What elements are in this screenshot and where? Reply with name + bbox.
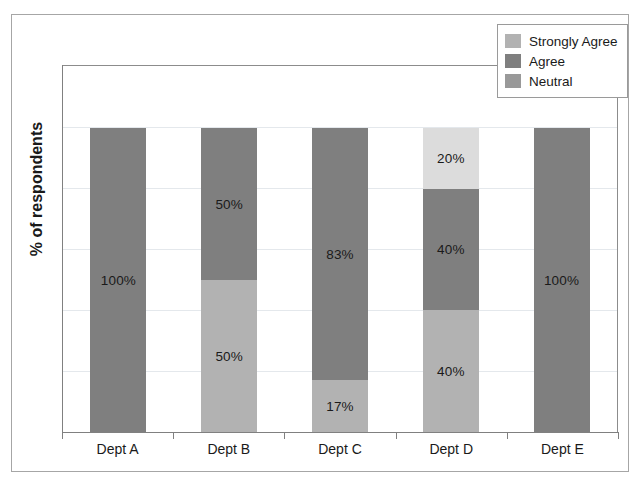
bar-segment-label: 50% — [215, 197, 243, 212]
legend-item[interactable]: Neutral — [505, 71, 618, 91]
bar-slot: 100% — [63, 66, 174, 432]
chart-legend: Strongly AgreeAgreeNeutral — [497, 24, 628, 98]
x-axis-line — [62, 432, 619, 433]
bar-segment-label: 83% — [326, 247, 354, 262]
x-axis-tick — [618, 433, 619, 439]
legend-swatch — [505, 74, 521, 88]
bar-segment[interactable]: 17% — [312, 380, 368, 432]
bar-segment-label: 20% — [437, 151, 465, 166]
x-axis-label: Dept E — [507, 441, 618, 465]
bar-segment[interactable]: 100% — [90, 128, 146, 432]
stacked-bar[interactable]: 100% — [534, 128, 590, 432]
legend-item[interactable]: Strongly Agree — [505, 31, 618, 51]
stacked-bar[interactable]: 50%50% — [201, 128, 257, 432]
legend-label: Neutral — [529, 74, 573, 89]
bar-segment[interactable]: 40% — [423, 189, 479, 311]
bar-slot: 83%17% — [285, 66, 396, 432]
bar-segment-label: 40% — [437, 364, 465, 379]
legend-item[interactable]: Agree — [505, 51, 618, 71]
bar-slot: 20%40%40% — [395, 66, 506, 432]
bar-segment[interactable]: 40% — [423, 310, 479, 432]
x-axis-label: Dept C — [284, 441, 395, 465]
bar-segment-label: 100% — [544, 273, 579, 288]
bar-slot: 100% — [506, 66, 617, 432]
x-axis-tick — [62, 433, 63, 439]
bar-segment[interactable]: 20% — [423, 128, 479, 189]
bar-segment-label: 40% — [437, 242, 465, 257]
bar-segment[interactable]: 83% — [312, 128, 368, 380]
x-axis-tick — [507, 433, 508, 439]
bar-group: 100%50%50%83%17%20%40%40%100% — [63, 66, 617, 432]
y-axis-line — [62, 65, 63, 433]
stacked-bar[interactable]: 20%40%40% — [423, 128, 479, 432]
bar-slot: 50%50% — [174, 66, 285, 432]
bar-segment[interactable]: 50% — [201, 280, 257, 432]
x-axis-tick — [284, 433, 285, 439]
chart-figure: 100%50%50%83%17%20%40%40%100% Dept ADept… — [0, 0, 641, 488]
x-axis-label: Dept B — [173, 441, 284, 465]
x-axis-label: Dept A — [62, 441, 173, 465]
x-axis-tick — [396, 433, 397, 439]
bar-segment-label: 50% — [215, 349, 243, 364]
bar-segment[interactable]: 100% — [534, 128, 590, 432]
bar-segment-label: 17% — [326, 399, 354, 414]
bar-segment[interactable]: 50% — [201, 128, 257, 280]
stacked-bar[interactable]: 83%17% — [312, 128, 368, 432]
x-axis-label: Dept D — [396, 441, 507, 465]
plot-area-border: 100%50%50%83%17%20%40%40%100% — [62, 65, 618, 433]
bar-segment-label: 100% — [101, 273, 136, 288]
y-axis-title: % of respondents — [28, 64, 46, 314]
legend-swatch — [505, 34, 521, 48]
stacked-bar[interactable]: 100% — [90, 128, 146, 432]
legend-label: Strongly Agree — [529, 34, 618, 49]
legend-label: Agree — [529, 54, 565, 69]
plot-area: 100%50%50%83%17%20%40%40%100% — [63, 66, 617, 432]
x-axis-tick — [173, 433, 174, 439]
legend-swatch — [505, 54, 521, 68]
x-axis-labels: Dept ADept BDept CDept DDept E — [62, 441, 618, 465]
